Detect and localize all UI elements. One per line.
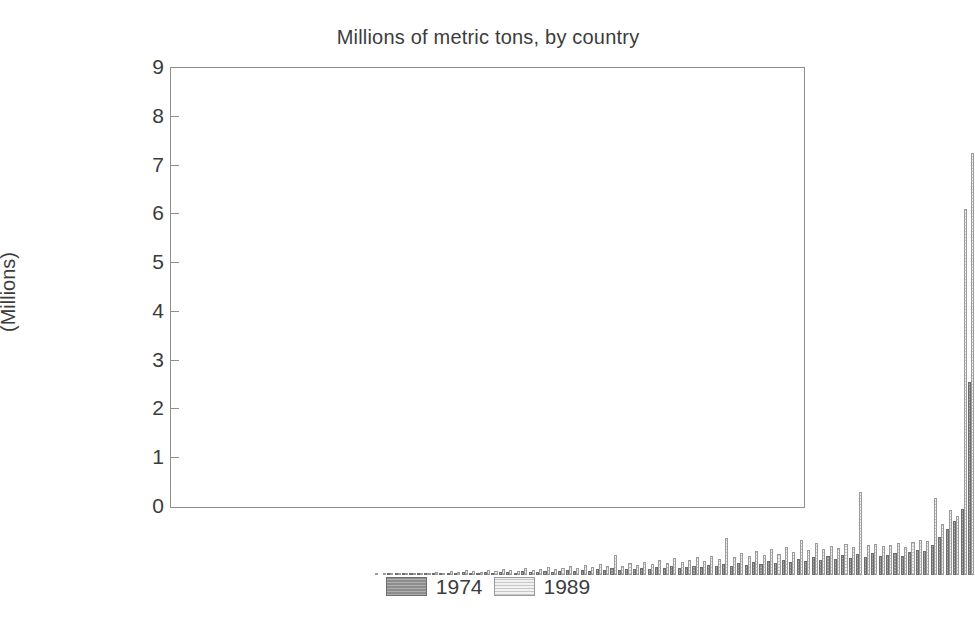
chart-title: Millions of metric tons, by country <box>170 26 806 49</box>
y-tick-mark-7 <box>170 165 179 166</box>
chart-legend: 19741989 <box>170 566 806 606</box>
bar-1989-C79 <box>926 541 929 575</box>
bar-1989-C63 <box>807 550 810 575</box>
y-axis-title: (Millions) <box>0 192 20 392</box>
legend-swatch-1974 <box>386 577 427 596</box>
bars-layer <box>342 136 975 575</box>
bar-1989-C67 <box>837 548 840 575</box>
y-tick-label-4: 4 <box>138 300 164 321</box>
legend-swatch-1989 <box>494 577 535 596</box>
bar-1989-C71 <box>867 545 870 575</box>
bar-1989-C72 <box>874 544 877 575</box>
bar-1989-C76 <box>904 547 907 575</box>
y-tick-label-7: 7 <box>138 154 164 175</box>
bar-1989-C84 <box>964 209 967 575</box>
bar-1989-C68 <box>844 544 847 575</box>
y-tick-mark-1 <box>170 457 179 458</box>
y-tick-label-0: 0 <box>138 495 164 516</box>
y-tick-mark-6 <box>170 213 179 214</box>
y-tick-label-3: 3 <box>138 349 164 370</box>
y-tick-label-2: 2 <box>138 397 164 418</box>
y-tick-mark-4 <box>170 311 179 312</box>
bar-1989-C80 <box>934 498 937 575</box>
y-tick-label-1: 1 <box>138 446 164 467</box>
bar-1989-C69 <box>852 547 855 575</box>
legend-entry-1974[interactable]: 1974 <box>386 576 483 597</box>
bar-1989-C78 <box>919 540 922 575</box>
bar-1989-C81 <box>941 524 944 575</box>
y-tick-label-6: 6 <box>138 202 164 223</box>
bar-1989-C70 <box>859 492 862 575</box>
bar-1989-C85 <box>971 153 974 575</box>
legend-label-1974: 1974 <box>436 576 483 597</box>
bar-1989-C73 <box>882 546 885 575</box>
bar-1989-C74 <box>889 545 892 575</box>
y-tick-mark-2 <box>170 408 179 409</box>
bar-1989-C77 <box>911 542 914 575</box>
y-axis-tick-labels: 9876543210 <box>134 0 164 630</box>
bar-1989-C66 <box>830 546 833 575</box>
y-tick-mark-8 <box>170 116 179 117</box>
y-tick-label-9: 9 <box>138 56 164 77</box>
bar-1989-C82 <box>949 510 952 575</box>
y-tick-mark-5 <box>170 262 179 263</box>
legend-entry-1989[interactable]: 1989 <box>494 576 591 597</box>
bar-1989-C65 <box>822 549 825 575</box>
bar-1989-C75 <box>897 543 900 575</box>
legend-label-1989: 1989 <box>544 576 591 597</box>
plot-area <box>170 67 805 508</box>
y-tick-mark-3 <box>170 360 179 361</box>
bar-1989-C64 <box>815 543 818 575</box>
y-tick-label-8: 8 <box>138 105 164 126</box>
bar-1989-C83 <box>956 516 959 575</box>
y-tick-label-5: 5 <box>138 251 164 272</box>
